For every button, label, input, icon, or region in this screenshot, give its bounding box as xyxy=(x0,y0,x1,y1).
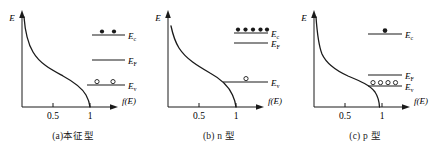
tick-label-one-a: 1 xyxy=(88,111,93,121)
panel-b-n-type: E f(E) 0.5 1 Ec EF Ev (b) n 型 xyxy=(146,0,292,146)
electron-dot xyxy=(258,28,262,32)
y-axis-label-b: E xyxy=(154,13,161,23)
x-axis-label-b: f(E) xyxy=(268,96,282,106)
tick-label-half-c: 0.5 xyxy=(339,111,351,121)
level-label-ec-c: Ec xyxy=(404,30,414,41)
level-label-ef-a: EF xyxy=(127,56,138,67)
level-label-ev-b: Ev xyxy=(270,78,280,89)
y-axis-arrow-b xyxy=(165,10,171,18)
hole-circle xyxy=(371,81,375,85)
electron-dot xyxy=(243,28,247,32)
y-axis-label-a: E xyxy=(8,13,15,23)
electron-dot xyxy=(100,29,104,33)
level-label-ef-c: EF xyxy=(404,71,415,82)
x-axis-arrow-c xyxy=(402,104,410,109)
tick-label-one-c: 1 xyxy=(380,111,385,121)
y-axis-label-c: E xyxy=(300,13,307,23)
panel-b-caption: (b) n 型 xyxy=(146,128,292,142)
panel-c-p-type: E f(E) 0.5 1 Ec EF Ev (c) p 型 xyxy=(292,0,438,146)
x-axis-label-c: f(E) xyxy=(414,96,428,106)
electron-dot xyxy=(236,28,240,32)
panel-c-plot: E f(E) 0.5 1 Ec EF Ev xyxy=(292,0,438,146)
electron-dot xyxy=(265,28,269,32)
x-axis-label-a: f(E) xyxy=(122,96,136,106)
hole-circle xyxy=(386,81,390,85)
panel-a-plot: E f(E) 0.5 1 Ec EF Ev xyxy=(0,0,146,146)
hole-circle xyxy=(111,80,115,84)
fermi-curve-a xyxy=(24,17,90,107)
hole-circle xyxy=(378,81,382,85)
tick-label-half-a: 0.5 xyxy=(47,111,59,121)
electron-dot xyxy=(112,29,116,33)
hole-circle xyxy=(95,80,99,84)
electron-dot xyxy=(251,28,255,32)
tick-label-half-b: 0.5 xyxy=(193,111,205,121)
panel-a-intrinsic: E f(E) 0.5 1 Ec EF Ev (a)本征型 xyxy=(0,0,146,146)
hole-circle xyxy=(244,77,248,81)
electron-dot xyxy=(383,28,388,33)
x-axis-arrow-b xyxy=(256,104,264,109)
level-label-ec-a: Ec xyxy=(127,31,137,42)
level-label-ev-a: Ev xyxy=(127,81,137,92)
panel-a-caption: (a)本征型 xyxy=(0,128,146,142)
level-label-ef-b: EF xyxy=(270,39,281,50)
hole-circle xyxy=(393,81,397,85)
tick-label-one-b: 1 xyxy=(234,111,239,121)
fermi-curve-c xyxy=(316,17,380,107)
x-axis-arrow-a xyxy=(110,104,118,109)
fermi-curve-b xyxy=(171,26,236,107)
band-diagram-figure: E f(E) 0.5 1 Ec EF Ev (a)本征型 xyxy=(0,0,438,146)
panel-b-plot: E f(E) 0.5 1 Ec EF Ev xyxy=(146,0,292,146)
panel-c-caption: (c) p 型 xyxy=(292,128,438,142)
level-label-ev-c: Ev xyxy=(404,82,414,93)
